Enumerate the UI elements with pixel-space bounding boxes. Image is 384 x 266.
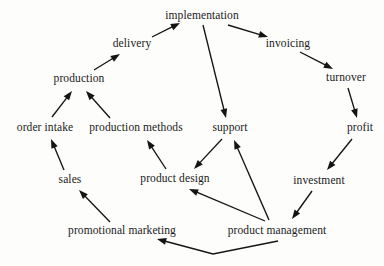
edge-product-management-product-design-arrowhead-icon <box>189 189 199 196</box>
edges-layer <box>51 23 358 254</box>
edge-production-delivery-arrowhead-icon <box>110 54 120 62</box>
edge-investment-product-management-arrowhead-icon <box>292 210 300 219</box>
edge-implementation-invoicing <box>228 25 268 38</box>
node-production-methods: production methods <box>89 121 183 134</box>
diagram-canvas: implementationdeliveryinvoicingproductio… <box>0 0 384 266</box>
node-implementation: implementation <box>165 9 239 22</box>
node-invoicing: invoicing <box>266 37 310 50</box>
edge-invoicing-turnover <box>300 52 333 69</box>
edge-product-management-support-line <box>237 147 269 220</box>
edge-order-intake-production <box>52 91 72 117</box>
edge-sales-order-intake <box>51 139 64 170</box>
node-delivery: delivery <box>113 37 152 50</box>
edge-sales-order-intake-arrowhead-icon <box>51 139 58 149</box>
edge-turnover-profit-line <box>348 88 355 111</box>
edge-invoicing-turnover-arrowhead-icon <box>323 62 333 69</box>
edge-turnover-profit-arrowhead-icon <box>351 108 358 118</box>
edge-support-product-design-line <box>199 139 222 163</box>
edge-implementation-invoicing-line <box>228 25 261 35</box>
edge-production-methods-production <box>86 91 110 118</box>
edge-product-management-promotional-marketing-arrowhead-icon <box>157 238 167 245</box>
node-product-design: product design <box>140 172 210 185</box>
nodes-layer: implementationdeliveryinvoicingproductio… <box>17 9 374 237</box>
edge-investment-product-management-line <box>296 191 312 213</box>
edge-product-management-support <box>234 140 269 220</box>
node-support: support <box>212 121 248 134</box>
edge-invoicing-turnover-line <box>300 52 326 65</box>
edge-promotional-marketing-sales <box>79 190 110 222</box>
node-production: production <box>54 72 105 85</box>
edge-delivery-implementation <box>152 23 180 37</box>
edge-sales-order-intake-line <box>54 146 64 170</box>
edge-delivery-implementation-line <box>152 26 173 37</box>
edge-product-management-product-design <box>189 189 265 221</box>
edge-implementation-support-line <box>203 25 224 111</box>
edge-production-delivery <box>94 54 120 70</box>
node-promotional-marketing: promotional marketing <box>68 224 176 237</box>
node-turnover: turnover <box>326 71 366 83</box>
edge-production-methods-production-line <box>91 97 110 118</box>
edge-product-management-promotional-marketing <box>157 238 278 254</box>
node-profit: profit <box>347 121 374 134</box>
process-flow-diagram: implementationdeliveryinvoicingproductio… <box>0 0 384 266</box>
edge-product-management-support-arrowhead-icon <box>234 140 241 150</box>
edge-product-design-production-methods <box>147 140 166 169</box>
edge-product-management-product-design-line <box>196 192 265 221</box>
edge-order-intake-production-line <box>52 97 67 117</box>
edge-investment-product-management <box>292 191 312 219</box>
edge-turnover-profit <box>348 88 358 118</box>
edge-product-design-production-methods-line <box>151 146 166 169</box>
edge-delivery-implementation-arrowhead-icon <box>170 23 180 30</box>
node-order-intake: order intake <box>17 121 73 133</box>
edge-support-product-design <box>194 139 222 169</box>
edge-implementation-support <box>203 25 227 118</box>
edge-product-design-production-methods-arrowhead-icon <box>147 140 155 150</box>
edge-profit-investment-line <box>332 139 352 164</box>
edge-profit-investment <box>327 139 352 170</box>
node-sales: sales <box>59 173 82 185</box>
edge-promotional-marketing-sales-line <box>84 196 110 222</box>
node-investment: investment <box>293 174 345 186</box>
edge-implementation-support-arrowhead-icon <box>220 108 227 118</box>
node-product-management: product management <box>228 224 327 237</box>
edge-order-intake-production-arrowhead-icon <box>64 91 72 100</box>
edge-production-delivery-line <box>94 58 113 70</box>
edge-product-management-promotional-marketing-line <box>164 241 278 254</box>
